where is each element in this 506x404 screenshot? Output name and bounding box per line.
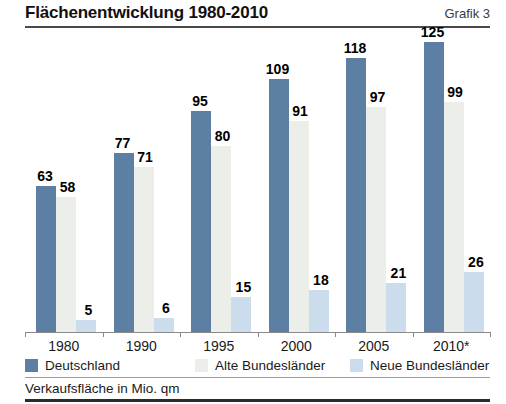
bar	[464, 272, 484, 332]
bar-value-label: 26	[468, 255, 484, 269]
bar-group: 63585	[25, 30, 103, 332]
bar-column: 125	[424, 30, 444, 332]
x-axis-label: 2010*	[413, 336, 491, 356]
bar-value-label: 21	[391, 266, 407, 280]
bar-column: 77	[114, 30, 134, 332]
bar	[424, 42, 444, 332]
bar-value-label: 77	[115, 136, 131, 150]
bar-group-bars: 1189721	[335, 30, 413, 332]
bar-column: 21	[386, 30, 406, 332]
legend-item-label: Deutschland	[45, 358, 120, 373]
bar-group-bars: 1099118	[258, 30, 336, 332]
x-axis-label: 1980	[25, 336, 103, 356]
bar-value-label: 95	[192, 94, 208, 108]
x-axis-labels: 198019901995200020052010*	[25, 336, 490, 356]
bar-value-label: 5	[84, 303, 92, 317]
bar	[366, 107, 386, 332]
bar-value-label: 91	[292, 104, 308, 118]
bar-value-label: 99	[447, 85, 463, 99]
bar-value-label: 58	[60, 180, 76, 194]
bar-column: 71	[134, 30, 154, 332]
x-axis-tick	[490, 332, 491, 337]
bar	[444, 102, 464, 332]
bar	[56, 197, 76, 332]
bar-column: 63	[36, 30, 56, 332]
x-axis-label: 1990	[103, 336, 181, 356]
bar	[289, 121, 309, 332]
page-title: Flächenentwicklung 1980-2010	[25, 3, 268, 23]
bar	[231, 297, 251, 332]
bar-value-label: 80	[215, 129, 231, 143]
legend-item[interactable]: Neue Bundesländer	[350, 358, 489, 373]
bar	[134, 167, 154, 332]
plot-area: 6358577716958015109911811897211259926	[25, 30, 490, 332]
bar-value-label: 97	[370, 90, 386, 104]
legend-swatch-icon	[25, 359, 38, 372]
bar-column: 5	[76, 30, 96, 332]
bar-column: 6	[154, 30, 174, 332]
legend-swatch-icon	[350, 359, 363, 372]
bar	[76, 320, 96, 332]
legend-swatch-icon	[195, 359, 208, 372]
bar	[269, 79, 289, 332]
bottom-rule	[25, 399, 490, 402]
bar-group: 1259926	[413, 30, 491, 332]
bar-group: 1099118	[258, 30, 336, 332]
bar-value-label: 109	[266, 62, 289, 76]
bar-value-label: 18	[313, 273, 329, 287]
bar-column: 18	[309, 30, 329, 332]
bar-column: 118	[346, 30, 366, 332]
bar	[386, 283, 406, 332]
chart-page: Flächenentwicklung 1980-2010 Grafik 3 63…	[0, 0, 506, 404]
bar-column: 99	[444, 30, 464, 332]
bar	[211, 146, 231, 332]
bar-value-label: 15	[236, 280, 252, 294]
legend-item-label: Neue Bundesländer	[370, 358, 489, 373]
bar-value-label: 63	[37, 169, 53, 183]
bar-column: 15	[231, 30, 251, 332]
bar	[154, 318, 174, 332]
bar-column: 58	[56, 30, 76, 332]
bar-column: 26	[464, 30, 484, 332]
bar-group: 77716	[103, 30, 181, 332]
bar-group: 958015	[180, 30, 258, 332]
bar	[309, 290, 329, 332]
x-axis-label: 1995	[180, 336, 258, 356]
figure-number-label: Grafik 3	[444, 3, 490, 21]
bar-column: 109	[269, 30, 289, 332]
bar-group-bars: 63585	[25, 30, 103, 332]
bar-value-label: 71	[137, 150, 153, 164]
x-axis-label: 2000	[258, 336, 336, 356]
bar-value-label: 6	[162, 301, 170, 315]
chart-legend: DeutschlandAlte BundesländerNeue Bundesl…	[25, 356, 490, 374]
bar-column: 91	[289, 30, 309, 332]
bar-group-bars: 958015	[180, 30, 258, 332]
bar-groups: 6358577716958015109911811897211259926	[25, 30, 490, 332]
footnote-divider	[25, 377, 490, 378]
bar-value-label: 125	[421, 25, 444, 39]
bar-value-label: 118	[344, 41, 367, 55]
bar-column: 80	[211, 30, 231, 332]
bar	[346, 58, 366, 332]
bar	[114, 153, 134, 332]
bar-group-bars: 1259926	[413, 30, 491, 332]
x-axis-label: 2005	[335, 336, 413, 356]
bar-group-bars: 77716	[103, 30, 181, 332]
bar	[191, 111, 211, 332]
bar-column: 95	[191, 30, 211, 332]
footnote-text: Verkaufsfläche in Mio. qm	[25, 381, 180, 396]
bar	[36, 186, 56, 332]
bar-group: 1189721	[335, 30, 413, 332]
legend-item-label: Alte Bundesländer	[215, 358, 325, 373]
legend-item[interactable]: Alte Bundesländer	[195, 358, 350, 373]
legend-item[interactable]: Deutschland	[25, 358, 195, 373]
bar-column: 97	[366, 30, 386, 332]
